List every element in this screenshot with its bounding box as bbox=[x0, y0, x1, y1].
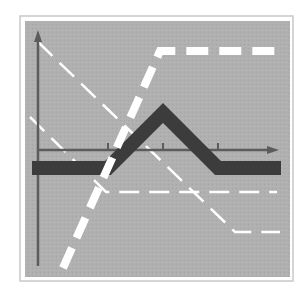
payoff-diagram bbox=[0, 0, 308, 300]
diagram-canvas bbox=[0, 0, 308, 300]
